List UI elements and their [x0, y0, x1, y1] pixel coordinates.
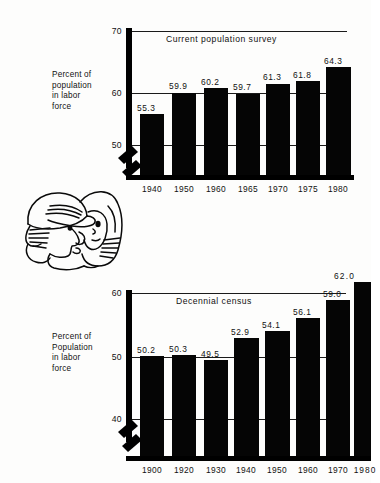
chart-bottom-title: Decennial census: [176, 296, 252, 306]
chart-top-value-1970: 61.3: [263, 72, 281, 82]
chart-bottom-value-1940: 52.9: [231, 327, 249, 337]
chart-top-title: Current population survey: [166, 34, 277, 44]
chart-bottom-ytick-60: 60: [100, 288, 122, 298]
cartoon-two-heads-icon: [8, 182, 130, 274]
chart-current-population-survey: Percent of population in labor force 70 …: [0, 0, 371, 195]
chart-bottom-bar-1980: [354, 282, 371, 456]
chart-top-ytick-70: 70: [100, 26, 122, 36]
chart-top-value-1950: 59.9: [169, 81, 187, 91]
chart-bottom-bar-1960: [296, 318, 320, 456]
chart-top-ytick-60: 60: [100, 88, 122, 98]
chart-bottom-baseline: [126, 456, 371, 461]
chart-top-value-1980: 64.3: [324, 56, 342, 66]
chart-top-bar-1980: [326, 67, 351, 175]
chart-bottom-bar-1930: [204, 360, 228, 456]
chart-top-value-1975: 61.8: [293, 70, 311, 80]
chart-top-value-1960: 60.2: [201, 77, 219, 87]
chart-bottom-gridline-60: [132, 293, 346, 294]
chart-bottom-bar-1900: [140, 356, 164, 456]
chart-bottom-value-1980: 62.0: [334, 271, 355, 281]
chart-top-bar-1970: [266, 84, 290, 175]
chart-bottom-value-1930: 49.5: [201, 349, 219, 359]
chart-bottom-value-1900: 50.2: [137, 345, 155, 355]
chart-bottom-bar-1920: [172, 355, 196, 456]
chart-top-bar-1960: [204, 88, 228, 175]
chart-top-value-1940: 55.3: [137, 103, 155, 113]
chart-top-baseline: [126, 175, 354, 180]
chart-top-xtick-1980: 1980: [318, 184, 358, 194]
chart-decennial-census: Percent of Population in labor force 60 …: [0, 270, 371, 483]
chart-bottom-bar-1940: [234, 338, 259, 456]
chart-bottom-value-1950: 54.1: [262, 320, 280, 330]
chart-bottom-bar-1970: [326, 300, 350, 456]
chart-top-value-1965: 59.7: [233, 82, 251, 92]
chart-bottom-xtick-1980: 1980: [345, 465, 380, 475]
chart-bottom-ytick-50: 50: [100, 352, 122, 362]
chart-bottom-value-1920: 50.3: [169, 344, 187, 354]
chart-top-bar-1965: [236, 94, 260, 175]
chart-bottom-bar-1950: [265, 331, 290, 456]
chart-top-bar-1940: [140, 114, 164, 175]
chart-bottom-value-1970: 59.0: [323, 289, 341, 299]
chart-bottom-value-1960: 56.1: [293, 307, 311, 317]
chart-top-bar-1950: [172, 93, 196, 175]
chart-top-gridline-70: [132, 31, 347, 32]
chart-top-bar-1975: [296, 81, 320, 175]
